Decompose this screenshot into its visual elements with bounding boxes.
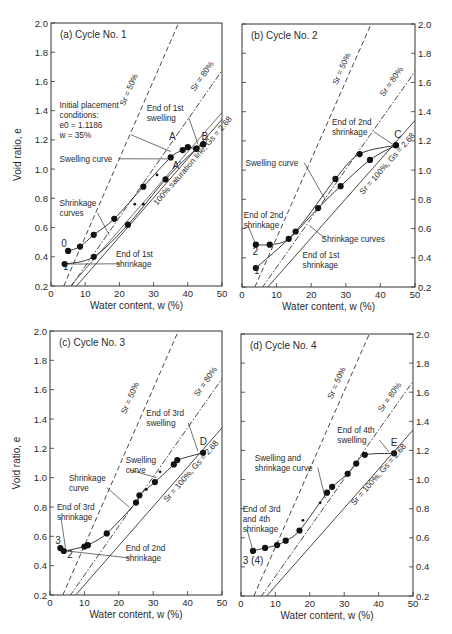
y-tick-label: 0.4 [416,561,429,572]
y-tick-label: 1.8 [416,358,429,369]
x-tick-label: 10 [271,289,282,300]
saturation-line-label: Sr = 100%, Gs = 2.68 [162,438,221,504]
y-tick-label: 1.6 [418,77,431,88]
y-tick-label: 0.4 [34,560,47,571]
data-point-small [142,203,145,206]
annotation: End of 1stswelling [147,104,185,123]
annotation: End of 4thswelling [337,426,375,445]
y-tick-label: 1.6 [34,384,47,395]
data-point [353,460,359,466]
x-tick-label: 40 [375,289,386,300]
annotation: End of 3rdand 4thshrinkage [243,505,281,534]
y-axis-label: Void ratio, e [12,128,23,181]
chart-panel-1: 010203040500.20.40.60.81.01.21.41.61.82.… [12,0,256,315]
saturation-line-label: Sr = 80% [376,381,403,414]
point-label: A [169,131,176,142]
x-axis-label: Water content, w (%) [90,609,183,620]
leader-line [379,440,389,452]
annotation: End of 3rdshrinkage [57,503,95,522]
y-tick-label: 1.0 [418,165,431,176]
annotation: Shrinkage curves [322,235,385,244]
y-tick-label: 0.8 [35,193,48,204]
data-point [91,232,97,238]
x-tick-label: 50 [217,288,228,299]
data-point [104,530,110,536]
y-tick-label: 1.2 [416,445,429,456]
data-point [125,222,131,228]
x-tick-label: 10 [80,288,91,299]
annotation: Swelling andshrinkage curve [255,454,313,473]
leader-line [131,135,171,152]
y-tick-label: 1.0 [416,474,429,485]
data-point-small [145,488,148,491]
leader-line [318,468,326,499]
x-tick-label: 0 [48,288,53,299]
x-tick-label: 40 [183,288,194,299]
x-tick-label: 10 [79,597,90,608]
leader-line [107,488,129,507]
data-point [111,216,117,222]
point-label: 1 [63,261,69,272]
y-axis-label: Void ratio, e [11,436,22,489]
y-tick-label: 2.0 [418,19,431,30]
data-point [324,490,330,496]
y-tick-label: 0.6 [416,532,429,543]
y-tick-label: 1.0 [34,472,47,483]
y-tick-label: 1.6 [416,387,429,398]
saturation-line-label: Sr = 100%, Gs = 2.68 [349,442,408,507]
y-tick-label: 1.4 [418,106,431,117]
x-tick-label: 20 [306,289,317,300]
y-tick-label: 1.6 [35,76,48,87]
y-tick-label: 1.4 [416,416,429,427]
y-tick-label: 0.8 [416,503,429,514]
data-point [61,548,67,554]
y-tick-label: 0.6 [34,531,47,542]
x-tick-label: 0 [47,597,52,608]
annotation: Swellingcurve [126,456,157,475]
y-tick-label: 0.2 [418,282,431,293]
data-point [296,527,302,533]
x-tick-label: 0 [239,289,244,300]
data-point [274,542,280,548]
annotation: End of 2ndshrinkage [332,118,372,137]
annotation: Swelling curve [245,159,298,168]
x-tick-label: 40 [182,597,193,608]
y-tick-label: 0.4 [35,251,48,262]
data-point [174,457,180,463]
data-point [65,248,71,254]
panel-title: (b) Cycle No. 2 [251,30,318,41]
y-tick-label: 1.4 [34,414,47,425]
saturation-line-label: Sr = 50% [118,72,140,107]
saturation-line-label: Sr = 50% [326,366,348,401]
y-tick-label: 2.0 [35,18,48,29]
data-point [293,228,299,234]
leader-line [189,118,198,145]
data-point [357,151,363,157]
y-tick-label: 2.0 [416,329,429,340]
x-tick-label: 30 [339,598,350,609]
y-tick-label: 0.2 [34,590,47,601]
y-tick-label: 2.0 [34,326,47,337]
data-point [345,471,351,477]
point-label: 2 [252,246,258,257]
data-point [332,176,338,182]
data-point-small [156,174,159,177]
x-tick-label: 20 [114,597,125,608]
y-tick-label: 1.2 [35,134,48,145]
saturation-line-label: Sr = 80% [189,60,216,93]
point-label: 3 [55,535,61,546]
leader-line [97,213,109,235]
y-tick-label: 0.6 [35,222,48,233]
y-tick-label: 1.8 [418,48,431,59]
leader-line [188,423,198,451]
point-label: C [394,129,401,140]
point-label: 1 [254,265,260,276]
y-tick-label: 0.4 [418,252,431,263]
x-tick-label: 20 [305,598,316,609]
annotation: End of 1stshrinkage [303,251,341,270]
figure: 010203040500.20.40.60.81.01.21.41.61.82.… [0,0,452,634]
y-tick-label: 0.8 [34,502,47,513]
annotation: End of 1stshrinkage [116,250,154,269]
data-point [338,183,344,189]
data-point [85,542,91,548]
